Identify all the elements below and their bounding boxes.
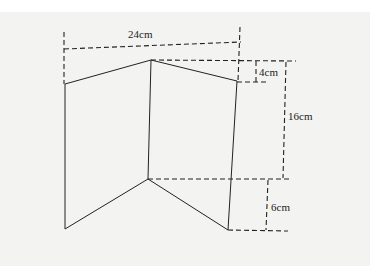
peak-offset-label: 4cm	[259, 66, 278, 78]
diagram-canvas: 24cm 4cm 16cm 6cm	[0, 0, 380, 266]
width-right-guide	[238, 27, 240, 81]
bottom-edge	[65, 179, 228, 230]
right-edge	[228, 81, 237, 230]
middle-fold	[148, 60, 151, 179]
folded-net-figure: 24cm 4cm 16cm 6cm	[0, 0, 380, 266]
bottom-guide	[228, 230, 288, 231]
bottom-offset-dimension	[266, 180, 268, 230]
height-label: 16cm	[288, 110, 313, 122]
bottom-offset-label: 6cm	[271, 201, 290, 213]
width-label: 24cm	[128, 28, 153, 40]
height-dimension	[283, 62, 286, 178]
peak-guide	[151, 60, 296, 61]
width-dimension-line	[64, 42, 241, 49]
